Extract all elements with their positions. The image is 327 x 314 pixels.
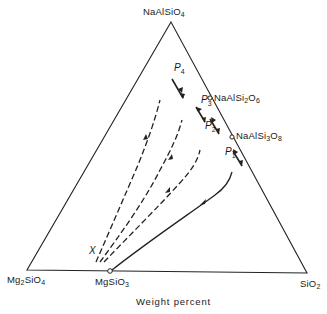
axis-caption: Weight percent <box>136 296 211 307</box>
mgsio3-point <box>108 269 113 274</box>
arrow-icon <box>168 154 173 160</box>
curve-p4 <box>96 100 160 262</box>
arrow-icon <box>165 187 170 193</box>
jadeite-label: NaAlSi2O6 <box>214 92 260 104</box>
p1-label: P1 <box>225 146 236 159</box>
curve-p2 <box>104 150 200 262</box>
x-composition-label: X <box>89 245 96 256</box>
vertex-label-bottom-right: SiO2 <box>300 278 321 290</box>
p2-label: P2 <box>205 120 216 133</box>
ternary-triangle <box>27 22 307 273</box>
arrow-icon <box>143 134 148 140</box>
ternary-diagram-canvas <box>0 0 327 314</box>
vertex-label-bottom-left: Mg2SiO4 <box>7 274 45 286</box>
p4-label: P4 <box>174 62 185 75</box>
vertex-label-top: NaAlSiO4 <box>143 6 185 18</box>
albite-point <box>230 135 234 139</box>
mgsio3-label: MgSiO3 <box>95 276 129 288</box>
arrow-icon <box>200 199 206 205</box>
albite-label: NaAlSi3O8 <box>236 130 282 142</box>
p3-label: P3 <box>201 94 212 107</box>
